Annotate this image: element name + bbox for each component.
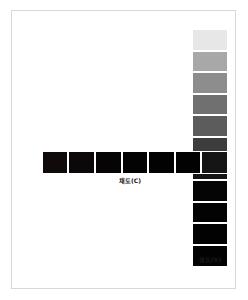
value-swatch xyxy=(192,180,228,202)
chroma-swatch xyxy=(148,151,175,174)
chroma-swatch xyxy=(42,151,69,174)
chroma-swatch xyxy=(95,151,122,174)
value-swatch xyxy=(192,223,228,245)
chroma-swatch xyxy=(68,151,95,174)
value-swatch xyxy=(192,115,228,137)
value-swatch xyxy=(192,51,228,73)
color-scale-diagram: 명도(V) 채도(C) xyxy=(0,0,248,300)
value-axis-label: 명도(V) xyxy=(193,257,227,263)
chroma-swatch xyxy=(201,151,228,174)
chroma-swatch xyxy=(122,151,149,174)
value-swatch xyxy=(192,72,228,94)
chroma-swatch xyxy=(175,151,202,174)
value-swatch xyxy=(192,94,228,116)
chroma-axis-label: 채도(C) xyxy=(104,178,156,184)
value-swatch xyxy=(192,202,228,224)
value-swatch xyxy=(192,29,228,51)
